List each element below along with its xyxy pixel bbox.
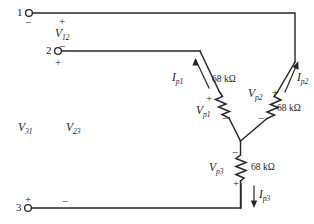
current-arrow-ip1-head	[192, 58, 198, 66]
vp3-plus-sign: +	[233, 178, 239, 189]
vp2-symbol: V	[248, 87, 255, 99]
vp1-minus-sign: −	[222, 113, 228, 124]
resistor-3-value: 68 kΩ	[251, 163, 275, 173]
v31-minus-sign: −	[62, 196, 68, 207]
ip2-label: Ip2	[297, 72, 308, 84]
circuit-diagram-canvas: 1 − + V12 − 2 + V31 V23 3 + − Ip1 68 kΩ …	[0, 0, 314, 224]
vp2-plus-sign: +	[272, 87, 278, 98]
v12-label: V12	[55, 28, 70, 40]
terminal-2-plus-sign: +	[55, 57, 61, 68]
vp3-subscript: p3	[216, 167, 224, 176]
v12-minus-sign: −	[59, 41, 65, 52]
vp1-plus-sign: +	[206, 93, 212, 104]
vp1-subscript: p1	[203, 110, 211, 119]
resistor-1-value: 68 kΩ	[212, 75, 236, 85]
ip3-subscript: p3	[263, 194, 271, 203]
vp2-label: Vp2	[248, 88, 263, 100]
terminal-3-label: 3	[16, 202, 22, 213]
v31-subscript: 31	[25, 127, 33, 136]
wire-phase-2-upper	[278, 62, 296, 92]
wire-terminal-1	[33, 13, 296, 62]
vp3-symbol: V	[209, 161, 216, 173]
v23-symbol: V	[66, 121, 73, 133]
wire-phase-1-lower	[229, 118, 241, 141]
ip1-label: Ip1	[172, 72, 183, 84]
current-arrow-ip3-head	[251, 201, 257, 209]
v12-plus-sign: +	[59, 16, 65, 27]
ip2-subscript: p2	[301, 77, 309, 86]
terminal-3-node	[25, 205, 32, 212]
vp1-symbol: V	[196, 104, 203, 116]
v31-symbol: V	[18, 121, 25, 133]
terminal-3-plus-sign: +	[25, 194, 31, 205]
v31-label: V31	[18, 122, 33, 134]
vp1-label: Vp1	[196, 105, 211, 117]
terminal-1-minus-sign: −	[25, 17, 31, 28]
v23-subscript: 23	[73, 127, 81, 136]
terminal-1-label: 1	[17, 7, 23, 18]
v23-label: V23	[66, 122, 81, 134]
wire-phase-1-upper	[200, 51, 220, 92]
vp3-minus-sign: −	[232, 147, 238, 158]
vp3-label: Vp3	[209, 162, 224, 174]
resistor-2-value: 68 kΩ	[277, 104, 301, 114]
vp2-minus-sign: −	[258, 113, 264, 124]
ip3-label: Ip3	[259, 189, 270, 201]
vp2-subscript: p2	[255, 93, 263, 102]
v12-symbol: V	[55, 27, 62, 39]
terminal-2-label: 2	[46, 45, 52, 56]
ip1-subscript: p1	[176, 77, 184, 86]
